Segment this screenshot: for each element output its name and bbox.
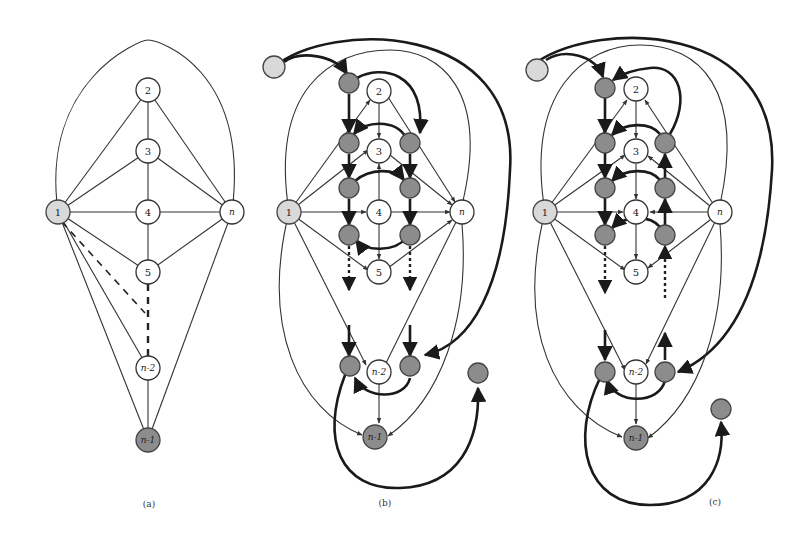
node-n: n — [708, 200, 732, 224]
svg-text:3: 3 — [145, 146, 151, 157]
flow-edge — [284, 56, 347, 74]
panel-c: 1 2 3 4 5 n n-2 n-1 (c) — [526, 38, 772, 507]
svg-text:5: 5 — [145, 267, 151, 278]
node-n-1: n-1 — [624, 426, 648, 450]
svg-text:n: n — [229, 207, 235, 217]
flow-arc — [585, 378, 721, 505]
svg-text:4: 4 — [633, 207, 639, 218]
panel-a: 1 2 3 4 5 n n-2 n-1 (a) — [46, 40, 244, 509]
edge — [535, 212, 622, 437]
edge — [388, 97, 455, 202]
flow-arc — [613, 68, 680, 134]
edge — [648, 224, 721, 438]
edge-dashed — [62, 222, 145, 313]
edge-arc — [56, 40, 235, 212]
node-4: 4 — [136, 200, 160, 224]
svg-text:4: 4 — [376, 207, 382, 218]
caption-c: (c) — [709, 497, 721, 507]
node-5: 5 — [624, 260, 648, 284]
svg-text:3: 3 — [376, 146, 382, 157]
relay-node — [655, 133, 675, 153]
relay-node — [339, 133, 359, 153]
edge — [148, 212, 232, 440]
node-n-2: n-2 — [367, 360, 391, 384]
svg-text:1: 1 — [55, 207, 61, 218]
panel-b: 1 2 3 4 5 n n-2 n-1 (b) — [263, 39, 510, 508]
node-1: 1 — [277, 200, 301, 224]
node-2: 2 — [136, 78, 160, 102]
caption-a: (a) — [143, 499, 155, 509]
caption-b: (b) — [379, 498, 392, 508]
svg-text:n-1: n-1 — [368, 432, 383, 442]
svg-text:2: 2 — [145, 85, 151, 96]
svg-text:n-2: n-2 — [141, 363, 156, 373]
node-1: 1 — [533, 200, 557, 224]
relay-node — [655, 178, 675, 198]
svg-text:n-1: n-1 — [629, 433, 644, 443]
flow-arc — [334, 375, 478, 488]
node-4: 4 — [367, 200, 391, 224]
svg-text:4: 4 — [145, 207, 151, 218]
svg-text:3: 3 — [633, 146, 639, 157]
node-5: 5 — [136, 260, 160, 284]
relay-node — [655, 225, 675, 245]
svg-text:n-2: n-2 — [372, 367, 387, 377]
relay-node — [400, 133, 420, 153]
source-node — [263, 56, 285, 78]
sink-node — [711, 399, 731, 419]
relay-node — [339, 73, 359, 93]
node-1: 1 — [46, 200, 70, 224]
flow-arc — [356, 238, 406, 249]
relay-node — [595, 178, 615, 198]
relay-node — [339, 225, 359, 245]
node-n-1: n-1 — [363, 425, 387, 449]
svg-text:1: 1 — [542, 207, 548, 218]
edge-arc — [285, 50, 470, 212]
relay-node — [339, 178, 359, 198]
svg-text:2: 2 — [376, 86, 382, 97]
svg-text:n-1: n-1 — [141, 435, 156, 445]
relay-node — [595, 225, 615, 245]
edge — [289, 100, 370, 212]
relay-node — [595, 78, 615, 98]
node-3: 3 — [624, 139, 648, 163]
graph-figure: 1 2 3 4 5 n n-2 n-1 (a) — [0, 0, 808, 535]
edge — [58, 212, 148, 440]
svg-text:2: 2 — [633, 84, 639, 95]
node-3: 3 — [136, 139, 160, 163]
edge — [648, 220, 710, 268]
edge — [58, 212, 148, 368]
svg-text:n-2: n-2 — [629, 367, 644, 377]
node-4: 4 — [624, 200, 648, 224]
edge — [148, 151, 232, 212]
svg-text:n: n — [459, 207, 465, 217]
svg-text:n: n — [717, 207, 723, 217]
edge — [148, 212, 232, 272]
node-3: 3 — [367, 139, 391, 163]
node-n-2: n-2 — [136, 356, 160, 380]
svg-text:5: 5 — [633, 267, 639, 278]
node-5: 5 — [367, 260, 391, 284]
relay-node — [595, 133, 615, 153]
relay-node — [400, 178, 420, 198]
node-n: n — [220, 200, 244, 224]
relay-node — [400, 225, 420, 245]
flow-edge — [546, 54, 603, 77]
node-2: 2 — [624, 77, 648, 101]
sink-node — [468, 363, 488, 383]
edge — [58, 212, 148, 272]
relay-node — [655, 362, 675, 382]
relay-node — [340, 356, 360, 376]
edge — [388, 224, 463, 436]
node-n-1: n-1 — [136, 428, 160, 452]
flow-arc — [537, 38, 772, 372]
source-node — [526, 59, 548, 81]
edge — [390, 155, 452, 205]
edge — [545, 100, 627, 212]
node-n-2: n-2 — [624, 360, 648, 384]
svg-text:1: 1 — [286, 207, 292, 218]
node-2: 2 — [367, 79, 391, 103]
relay-node — [400, 356, 420, 376]
svg-text:5: 5 — [376, 267, 382, 278]
node-n: n — [450, 200, 474, 224]
